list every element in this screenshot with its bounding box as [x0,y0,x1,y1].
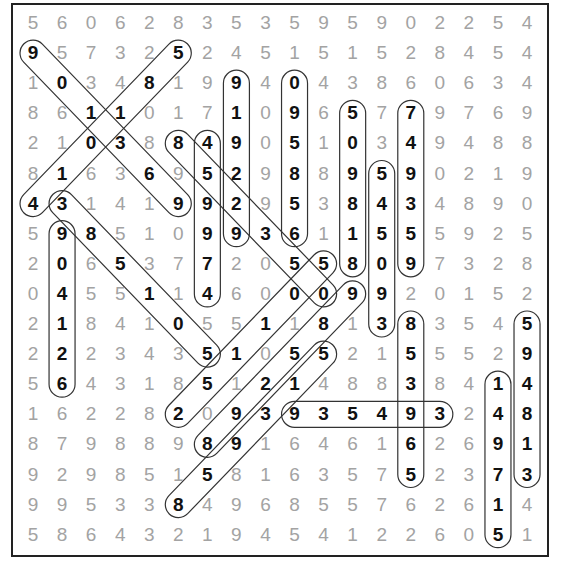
grid-cell[interactable]: 4 [457,130,481,156]
grid-cell[interactable]: 9 [457,221,481,247]
grid-cell[interactable]: 1 [108,100,132,126]
grid-cell[interactable]: 1 [283,40,307,66]
grid-cell[interactable]: 3 [108,40,132,66]
grid-cell[interactable]: 4 [253,522,277,548]
grid-cell[interactable]: 3 [137,522,161,548]
grid-cell[interactable]: 3 [166,341,190,367]
grid-cell[interactable]: 9 [428,130,452,156]
grid-cell[interactable]: 8 [79,221,103,247]
grid-cell[interactable]: 6 [108,10,132,36]
grid-cell[interactable]: 1 [137,311,161,337]
grid-cell[interactable]: 9 [195,221,219,247]
grid-cell[interactable]: 1 [137,371,161,397]
grid-cell[interactable]: 8 [108,462,132,488]
grid-cell[interactable]: 1 [341,522,365,548]
grid-cell[interactable]: 5 [486,522,510,548]
grid-cell[interactable]: 5 [283,130,307,156]
grid-cell[interactable]: 9 [224,401,248,427]
grid-cell[interactable]: 5 [21,371,45,397]
grid-cell[interactable]: 5 [224,10,248,36]
grid-cell[interactable]: 8 [137,130,161,156]
grid-cell[interactable]: 6 [486,100,510,126]
grid-cell[interactable]: 1 [283,311,307,337]
grid-cell[interactable]: 4 [312,431,336,457]
grid-cell[interactable]: 5 [457,311,481,337]
grid-cell[interactable]: 2 [21,130,45,156]
grid-cell[interactable]: 3 [108,161,132,187]
grid-cell[interactable]: 5 [253,40,277,66]
grid-cell[interactable]: 6 [283,462,307,488]
grid-cell[interactable]: 6 [399,70,423,96]
grid-cell[interactable]: 8 [195,431,219,457]
grid-cell[interactable]: 6 [457,70,481,96]
grid-cell[interactable]: 4 [515,371,539,397]
grid-cell[interactable]: 1 [370,431,394,457]
grid-cell[interactable]: 8 [166,371,190,397]
grid-cell[interactable]: 9 [515,161,539,187]
grid-cell[interactable]: 4 [21,191,45,217]
grid-cell[interactable]: 1 [166,70,190,96]
grid-cell[interactable]: 9 [224,70,248,96]
grid-cell[interactable]: 5 [108,281,132,307]
grid-cell[interactable]: 4 [108,70,132,96]
grid-cell[interactable]: 3 [253,221,277,247]
grid-cell[interactable]: 3 [428,311,452,337]
grid-cell[interactable]: 9 [166,161,190,187]
grid-cell[interactable]: 3 [486,70,510,96]
grid-cell[interactable]: 8 [515,251,539,277]
grid-cell[interactable]: 4 [137,341,161,367]
grid-cell[interactable]: 5 [370,221,394,247]
grid-cell[interactable]: 1 [224,341,248,367]
grid-cell[interactable]: 9 [224,522,248,548]
grid-cell[interactable]: 6 [79,251,103,277]
grid-cell[interactable]: 4 [515,70,539,96]
grid-cell[interactable]: 9 [341,281,365,307]
grid-cell[interactable]: 7 [195,100,219,126]
grid-cell[interactable]: 3 [457,462,481,488]
grid-cell[interactable]: 7 [370,100,394,126]
grid-cell[interactable]: 8 [21,100,45,126]
grid-cell[interactable]: 0 [79,130,103,156]
grid-cell[interactable]: 9 [370,10,394,36]
grid-cell[interactable]: 2 [486,341,510,367]
grid-cell[interactable]: 6 [283,221,307,247]
grid-cell[interactable]: 6 [79,522,103,548]
grid-cell[interactable]: 5 [283,341,307,367]
grid-cell[interactable]: 9 [224,492,248,518]
grid-cell[interactable]: 6 [283,431,307,457]
grid-cell[interactable]: 1 [137,191,161,217]
grid-cell[interactable]: 5 [312,341,336,367]
grid-cell[interactable]: 4 [224,40,248,66]
grid-cell[interactable]: 3 [312,401,336,427]
grid-cell[interactable]: 6 [457,492,481,518]
grid-cell[interactable]: 5 [312,492,336,518]
grid-cell[interactable]: 7 [428,251,452,277]
grid-cell[interactable]: 9 [195,191,219,217]
grid-cell[interactable]: 3 [370,311,394,337]
grid-cell[interactable]: 5 [486,40,510,66]
grid-cell[interactable]: 1 [486,492,510,518]
grid-cell[interactable]: 2 [166,401,190,427]
grid-cell[interactable]: 0 [50,251,74,277]
grid-cell[interactable]: 3 [370,130,394,156]
grid-cell[interactable]: 2 [166,522,190,548]
grid-cell[interactable]: 9 [166,191,190,217]
grid-cell[interactable]: 5 [515,311,539,337]
grid-cell[interactable]: 6 [137,161,161,187]
grid-cell[interactable]: 5 [283,191,307,217]
grid-cell[interactable]: 2 [50,462,74,488]
grid-cell[interactable]: 1 [224,371,248,397]
grid-cell[interactable]: 8 [21,431,45,457]
grid-cell[interactable]: 0 [515,191,539,217]
grid-cell[interactable]: 4 [312,371,336,397]
grid-cell[interactable]: 8 [137,401,161,427]
grid-cell[interactable]: 4 [50,281,74,307]
grid-cell[interactable]: 0 [253,251,277,277]
grid-cell[interactable]: 5 [224,311,248,337]
grid-cell[interactable]: 9 [283,100,307,126]
grid-cell[interactable]: 3 [50,191,74,217]
grid-cell[interactable]: 9 [428,100,452,126]
grid-cell[interactable]: 6 [50,371,74,397]
grid-cell[interactable]: 9 [79,462,103,488]
grid-cell[interactable]: 3 [399,371,423,397]
